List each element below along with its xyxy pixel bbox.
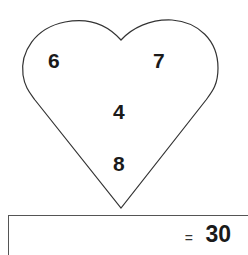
heart-number-top-right: 7 bbox=[153, 50, 165, 71]
heart-number-middle: 4 bbox=[113, 101, 125, 122]
equals-sign: = bbox=[185, 230, 193, 246]
result-value: 30 bbox=[205, 223, 231, 246]
heart-number-bottom: 8 bbox=[113, 153, 125, 174]
heart-number-top-left: 6 bbox=[48, 50, 60, 71]
